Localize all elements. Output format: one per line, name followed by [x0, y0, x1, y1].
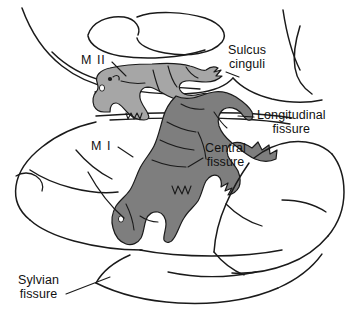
lateral-sulcus-branch-1	[30, 170, 118, 193]
occipital-lobe-right-contour	[328, 154, 344, 236]
label-central-fissure: Central fissure	[205, 142, 246, 169]
cingulate-gyrus-top-contour	[137, 13, 224, 55]
label-longitudinal-fissure: Longitudinal fissure	[257, 109, 326, 136]
lateral-sulcus-branch-2	[76, 150, 112, 179]
label-sulcus-cinguli: Sulcus cinguli	[228, 44, 266, 71]
sylvian-fissure-contour	[140, 250, 282, 256]
leader-m1	[118, 147, 133, 157]
leader-sylvian-fissure	[66, 277, 110, 294]
occipital-sulcus	[282, 200, 326, 212]
frontal-lobe-left-contour	[16, 122, 96, 220]
temporal-lobe-left-contour	[96, 255, 130, 283]
leader-sulcus-cinguli	[226, 72, 239, 77]
medial-surface-right-inner-fold	[294, 26, 312, 94]
parietal-sulcus	[226, 204, 262, 226]
m2-eye-icon	[99, 85, 104, 91]
temporal-lobe-bottom-contour	[96, 283, 278, 303]
label-sylvian-fissure: Sylvian fissure	[18, 274, 59, 301]
label-m1-region: M I	[91, 140, 111, 154]
brain-motor-cortex-figure: Sulcus cinguli Longitudinal fissure Cent…	[0, 0, 348, 326]
label-m2-region: M II	[81, 54, 106, 68]
longitudinal-fissure-upper-edge	[233, 78, 322, 102]
m2-nose-dot-icon	[108, 77, 112, 81]
medial-surface-right-flank	[283, 10, 300, 70]
cingulate-gyrus-upper-left-contour	[88, 17, 139, 35]
